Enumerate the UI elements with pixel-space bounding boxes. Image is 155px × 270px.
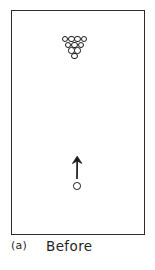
rack-ball [71, 53, 77, 59]
motion-arrow-icon [66, 151, 88, 179]
ball-rack [62, 36, 94, 64]
figure-before: (a) Before [0, 0, 155, 270]
caption-text: Before [46, 238, 93, 254]
caption-label: (a) [11, 239, 27, 252]
cue-ball [73, 182, 81, 190]
caption: (a) Before [0, 238, 155, 262]
